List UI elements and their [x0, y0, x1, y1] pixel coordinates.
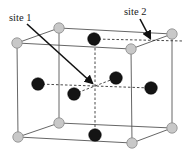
face-atom-back — [110, 72, 123, 85]
corner-atom-top-left-back — [54, 23, 64, 33]
corner-atom-top-right-back — [167, 29, 177, 39]
face-atom-bottom — [89, 129, 102, 142]
corner-atom-bottom-left-front — [13, 132, 23, 142]
edge-top-left — [17, 28, 59, 43]
edge-top-right — [131, 34, 172, 49]
edge-vertical-left-front — [17, 43, 18, 137]
face-atom-right — [145, 82, 158, 95]
edge-bottom-front — [18, 137, 132, 143]
edge-bottom-left — [18, 123, 59, 137]
edge-bottom-right — [132, 128, 172, 143]
edge-top-front — [17, 43, 131, 49]
site2-arrow — [140, 19, 150, 38]
edge-top-back — [59, 28, 172, 34]
dashed-top-extension — [94, 39, 183, 41]
corner-atom-top-left-front — [12, 38, 22, 48]
face-atom-front — [68, 88, 81, 101]
edge-bottom-back — [59, 123, 172, 128]
corner-atom-bottom-right-back — [167, 123, 177, 133]
dashed-horizontal-axis — [38, 84, 151, 88]
corner-atom-bottom-left-back — [54, 118, 64, 128]
edge-vertical-right-front — [131, 49, 132, 143]
site2-label: site 2 — [124, 6, 146, 17]
corner-atom-bottom-right-front — [127, 138, 137, 148]
face-atom-top — [88, 33, 101, 46]
corner-atom-top-right-front — [126, 44, 136, 54]
face-atom-left — [32, 78, 45, 91]
site1-label: site 1 — [9, 12, 31, 23]
crystal-unit-cell-diagram: site 1 site 2 — [0, 0, 188, 155]
